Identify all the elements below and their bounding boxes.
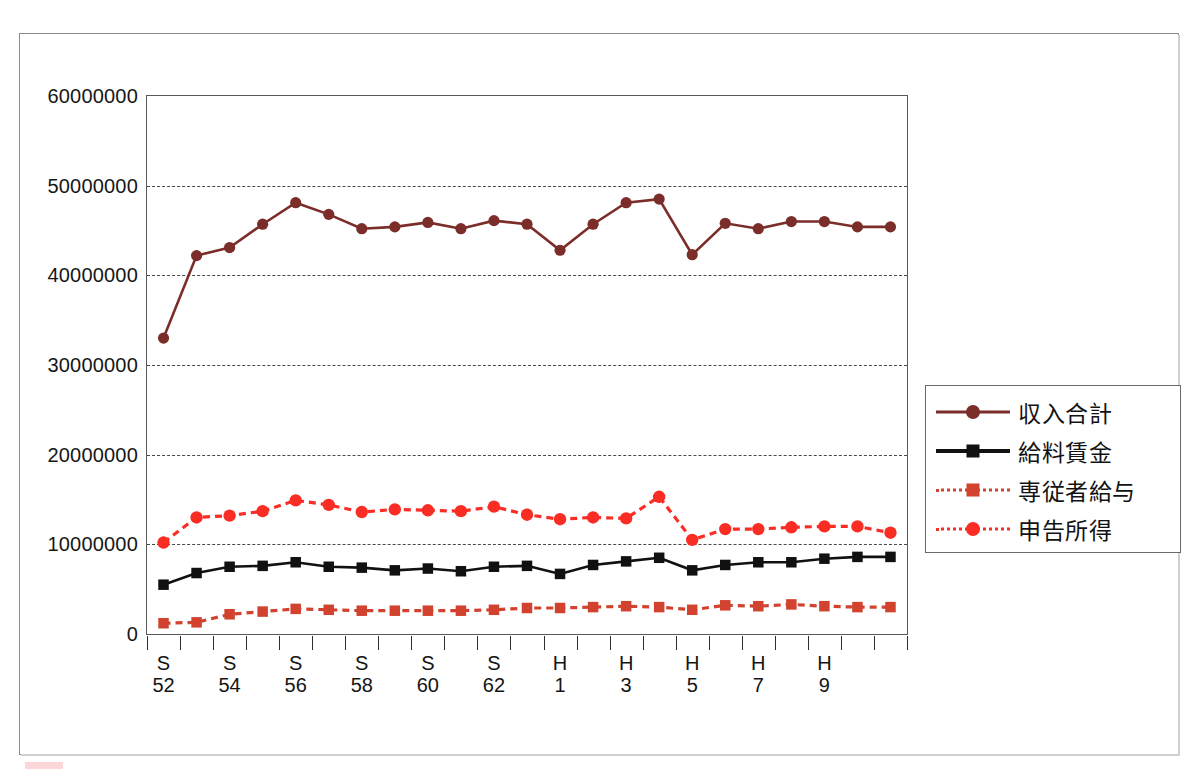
data-point bbox=[555, 603, 566, 614]
legend-swatch bbox=[936, 480, 1010, 500]
x-axis-tick bbox=[477, 636, 478, 650]
x-label-era: S bbox=[266, 652, 326, 674]
series-lines bbox=[147, 96, 907, 634]
x-axis-tick-label: S58 bbox=[332, 652, 392, 697]
data-point bbox=[819, 216, 830, 227]
legend-swatch bbox=[936, 402, 1010, 422]
data-point bbox=[455, 505, 467, 517]
x-label-era: H bbox=[596, 652, 656, 674]
x-axis-tick-label: S62 bbox=[464, 652, 524, 697]
series-専従者給与 bbox=[158, 599, 895, 628]
data-point bbox=[521, 219, 532, 230]
data-point bbox=[323, 605, 334, 616]
x-axis-tick-label: S54 bbox=[200, 652, 260, 697]
data-point bbox=[653, 491, 665, 503]
data-point bbox=[224, 609, 235, 620]
legend-label: 専従者給与 bbox=[1018, 473, 1136, 507]
data-point bbox=[256, 505, 268, 517]
legend-item-給料賃金[interactable]: 給料賃金 bbox=[926, 431, 1180, 470]
data-point bbox=[884, 526, 896, 538]
data-point bbox=[852, 552, 863, 563]
legend-item-申告所得[interactable]: 申告所得 bbox=[926, 509, 1180, 548]
data-point bbox=[620, 512, 632, 524]
data-point bbox=[687, 565, 698, 576]
x-axis-tick-label: H7 bbox=[728, 652, 788, 697]
x-axis-tick-label: H3 bbox=[596, 652, 656, 697]
legend-item-収入合計[interactable]: 収入合計 bbox=[926, 392, 1180, 431]
data-point bbox=[753, 557, 764, 568]
data-point bbox=[522, 561, 533, 572]
data-point bbox=[390, 605, 401, 616]
legend-item-専従者給与[interactable]: 専従者給与 bbox=[926, 470, 1180, 509]
data-point bbox=[588, 602, 599, 613]
data-point bbox=[753, 223, 764, 234]
x-label-year: 52 bbox=[134, 674, 194, 696]
data-point bbox=[687, 605, 698, 616]
data-point bbox=[489, 605, 500, 616]
data-point bbox=[588, 560, 599, 571]
data-point bbox=[587, 219, 598, 230]
data-point bbox=[456, 566, 467, 577]
y-axis-tick-label: 60000000 bbox=[47, 86, 138, 106]
x-label-era: S bbox=[398, 652, 458, 674]
data-point bbox=[158, 579, 169, 590]
data-point bbox=[488, 215, 499, 226]
x-axis-tick-label: H1 bbox=[530, 652, 590, 697]
data-point bbox=[257, 561, 268, 572]
data-point bbox=[522, 603, 533, 614]
x-axis-tick-label: S52 bbox=[134, 652, 194, 697]
data-point bbox=[224, 242, 235, 253]
data-point bbox=[389, 221, 400, 232]
x-label-era: H bbox=[530, 652, 590, 674]
x-axis-tick bbox=[841, 636, 842, 650]
x-axis-tick bbox=[643, 636, 644, 650]
data-point bbox=[422, 504, 434, 516]
x-label-era: S bbox=[332, 652, 392, 674]
data-point bbox=[720, 560, 731, 571]
x-axis-tick-label: H5 bbox=[662, 652, 722, 697]
x-axis-tick bbox=[577, 636, 578, 650]
y-axis-tick-label: 10000000 bbox=[47, 534, 138, 554]
x-label-year: 54 bbox=[200, 674, 260, 696]
data-point bbox=[819, 601, 830, 612]
data-point bbox=[357, 605, 368, 616]
x-axis-tick bbox=[544, 636, 545, 650]
data-point bbox=[489, 562, 500, 573]
x-label-year: 62 bbox=[464, 674, 524, 696]
x-axis-tick bbox=[676, 636, 677, 650]
data-point bbox=[224, 562, 235, 573]
data-point bbox=[157, 536, 169, 548]
data-point bbox=[323, 209, 334, 220]
data-point bbox=[223, 509, 235, 521]
data-point bbox=[190, 511, 202, 523]
x-axis-tick-label: H9 bbox=[794, 652, 854, 697]
legend-label: 申告所得 bbox=[1018, 512, 1112, 546]
data-point bbox=[389, 503, 401, 515]
data-point bbox=[257, 219, 268, 230]
data-point bbox=[654, 602, 665, 613]
y-axis-labels: 0100000002000000030000000400000005000000… bbox=[0, 0, 138, 771]
chart-page: 0100000002000000030000000400000005000000… bbox=[0, 0, 1203, 771]
x-label-year: 56 bbox=[266, 674, 326, 696]
x-label-year: 1 bbox=[530, 674, 590, 696]
data-point bbox=[621, 197, 632, 208]
data-point bbox=[720, 218, 731, 229]
data-point bbox=[191, 617, 202, 628]
legend-circle-marker bbox=[966, 522, 980, 536]
data-point bbox=[819, 553, 830, 564]
data-point bbox=[818, 520, 830, 532]
data-point bbox=[290, 494, 302, 506]
x-axis-tick bbox=[213, 636, 214, 650]
data-point bbox=[719, 523, 731, 535]
data-point bbox=[753, 601, 764, 612]
data-point bbox=[587, 511, 599, 523]
y-axis-tick-label: 50000000 bbox=[47, 176, 138, 196]
data-point bbox=[851, 520, 863, 532]
data-point bbox=[455, 223, 466, 234]
x-axis-tick bbox=[709, 636, 710, 650]
data-point bbox=[852, 602, 863, 613]
x-axis-tick-label: S60 bbox=[398, 652, 458, 697]
x-axis-tick bbox=[411, 636, 412, 650]
y-axis-tick-label: 30000000 bbox=[47, 355, 138, 375]
data-point bbox=[357, 562, 368, 573]
